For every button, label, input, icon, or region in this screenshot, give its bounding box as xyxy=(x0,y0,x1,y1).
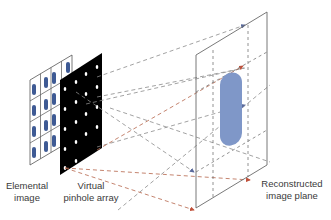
reconstructed-plane-label: Reconstructed image plane xyxy=(254,178,330,202)
elemental-image-label-line1: Elemental xyxy=(2,180,52,192)
reconstructed-object xyxy=(220,71,242,147)
elemental-image-label: Elemental image xyxy=(2,180,52,204)
reconstructed-plane-label-line2: image plane xyxy=(254,190,330,202)
reconstructed-plane-label-line1: Reconstructed xyxy=(254,178,330,190)
elemental-image-label-line2: image xyxy=(2,192,52,204)
pinhole-array-label-line1: Virtual xyxy=(60,180,122,192)
pinhole-array-label-line2: pinhole array xyxy=(60,192,122,204)
pinhole-array-label: Virtual pinhole array xyxy=(60,180,122,204)
